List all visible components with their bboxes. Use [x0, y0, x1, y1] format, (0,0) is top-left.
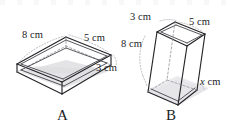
- label-shape-b-depth: 5 cm: [189, 17, 210, 28]
- shape-b-inner-rim-front-left: [161, 32, 187, 43]
- shape-b-leader-3cm: [160, 20, 177, 22]
- shape-b-edge-top-front-right: [187, 34, 205, 46]
- caption-shape-b: B: [166, 108, 176, 123]
- label-shape-a-height: 3 cm: [96, 63, 117, 74]
- label-shape-b-unknown: x cm: [200, 77, 221, 88]
- label-shape-a-length: 8 cm: [22, 30, 43, 41]
- shape-b-leader-8cm-tick: [143, 76, 147, 86]
- label-shape-b-height: 8 cm: [121, 39, 142, 50]
- label-shape-b-unknown-unit: cm: [205, 76, 221, 87]
- shape-b-drawing: [140, 20, 209, 106]
- shape-b-inner-rim-front-right: [187, 35, 202, 43]
- geometry-figure: 8 cm 5 cm 3 cm A 3 cm 5 cm 8 cm x cm B: [0, 0, 232, 131]
- shape-b-hidden-vertical-back: [167, 22, 175, 80]
- shape-a-inner-rim-back-left: [21, 40, 66, 64]
- shape-b-edge-vertical-left: [148, 32, 157, 92]
- label-shape-a-width: 5 cm: [84, 33, 105, 44]
- caption-shape-a: A: [57, 108, 68, 123]
- label-shape-b-width: 3 cm: [130, 12, 151, 23]
- shape-a-base-edge-back-right: [66, 48, 107, 63]
